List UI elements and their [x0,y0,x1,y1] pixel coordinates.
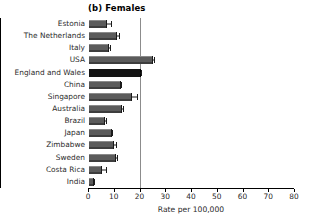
bar-row: Australia [88,103,294,115]
error-bar-cap [141,70,142,76]
bar-row: The Netherlands [88,30,294,42]
bar-row: USA [88,54,294,66]
bar [89,56,153,64]
bar-row: Zimbabwe [88,139,294,151]
bar-row: Costa Rica [88,164,294,176]
category-label: Brazil [64,118,85,125]
bar [89,166,102,174]
category-label: USA [70,57,85,64]
bar-row: Estonia [88,18,294,30]
category-label: Estonia [58,20,85,27]
bar [89,20,107,28]
chart-figure: (b) Females EstoniaThe NetherlandsItalyU… [0,0,325,220]
category-label: Japan [64,130,85,137]
error-bar-cap [117,155,118,161]
category-label: Singapore [48,93,85,100]
bar [89,93,132,101]
category-label: Costa Rica [46,166,85,173]
category-label: China [64,81,85,88]
error-bar-cap [106,167,107,173]
error-bar-cap [154,57,155,63]
error-bar-cap [119,33,120,39]
error-bar-cap [123,106,124,112]
bar [89,154,116,162]
bar-row: Brazil [88,115,294,127]
bar [89,105,122,113]
category-label: Sweden [56,154,85,161]
y-axis-line [0,18,1,188]
x-tick-label: 30 [161,193,170,200]
error-bar-cap [111,21,112,27]
bar [89,117,105,125]
chart-title: (b) Females [88,3,145,13]
bar-row: Italy [88,42,294,54]
bar-row: India [88,176,294,188]
x-tick-label: 0 [86,193,91,200]
error-bar-cap [116,142,117,148]
error-bar-cap [94,179,95,185]
bar [89,32,117,40]
error-bar-cap [112,130,113,136]
x-tick-label: 20 [135,193,144,200]
bar-row: England and Wales [88,67,294,79]
x-axis-title: Rate per 100,000 [88,205,294,214]
bar-row: Japan [88,127,294,139]
error-bar-cap [137,94,138,100]
x-tick-label: 80 [289,193,298,200]
plot-area: EstoniaThe NetherlandsItalyUSAEngland an… [88,18,294,188]
bar [89,129,112,137]
bar [89,44,109,52]
x-tick-label: 60 [238,193,247,200]
x-tick-label: 50 [212,193,221,200]
bar-row: Singapore [88,91,294,103]
category-label: India [67,178,85,185]
bar-row: Sweden [88,152,294,164]
category-label: England and Wales [15,69,85,76]
category-label: The Netherlands [24,33,85,40]
category-label: Australia [52,105,85,112]
bar [89,69,141,77]
bar [89,141,114,149]
error-bar-cap [106,118,107,124]
x-tick-label: 10 [109,193,118,200]
category-label: Zimbabwe [46,142,85,149]
x-tick-label: 40 [186,193,195,200]
x-tick-label: 70 [264,193,273,200]
bar [89,81,121,89]
category-label: Italy [69,45,85,52]
bar-row: China [88,79,294,91]
error-bar-cap [121,82,122,88]
error-bar-cap [110,45,111,51]
